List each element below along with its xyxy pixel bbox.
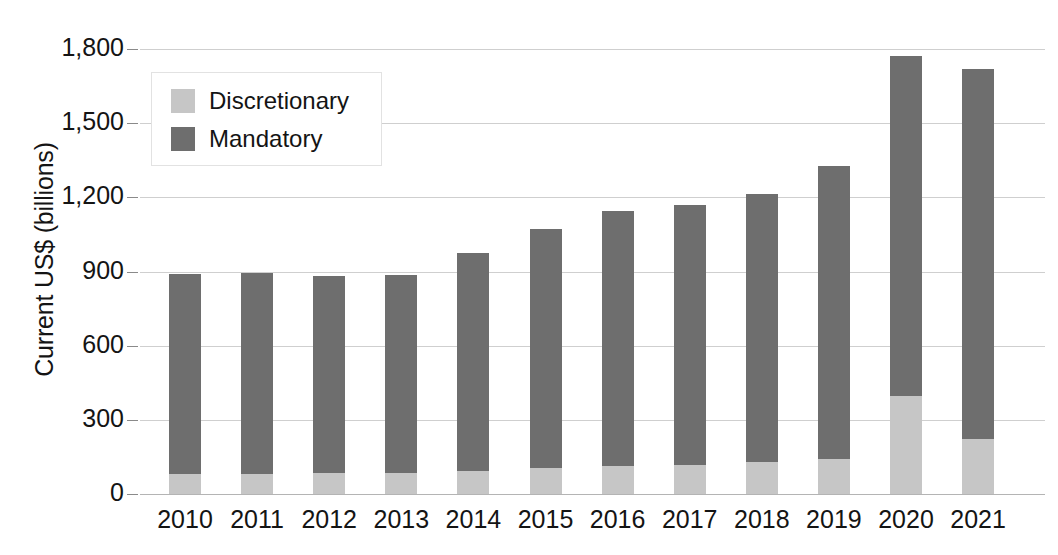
bar-segment-discretionary (602, 466, 634, 494)
bar-segment-mandatory (385, 275, 417, 473)
bar-segment-mandatory (169, 274, 201, 474)
bar-2017 (674, 205, 706, 494)
bar-segment-discretionary (241, 474, 273, 494)
bar-segment-mandatory (818, 166, 850, 458)
bar-segment-mandatory (890, 56, 922, 396)
y-tick-label: 900 (12, 256, 124, 285)
bar-2018 (746, 194, 778, 494)
bar-segment-mandatory (313, 276, 345, 473)
bar-segment-discretionary (169, 474, 201, 494)
bar-2021 (962, 69, 994, 494)
bar-2013 (385, 275, 417, 494)
bar-2014 (457, 253, 489, 494)
bar-segment-mandatory (457, 253, 489, 471)
bar-segment-mandatory (746, 194, 778, 462)
y-tick-label: 1,500 (12, 107, 124, 136)
y-tick-label: 300 (12, 404, 124, 433)
bar-segment-discretionary (962, 439, 994, 494)
bar-2012 (313, 276, 345, 494)
y-tick-mark (127, 494, 138, 495)
bar-2015 (530, 229, 562, 494)
y-tick-mark (127, 197, 138, 198)
bar-segment-mandatory (530, 229, 562, 468)
y-tick-label: 600 (12, 330, 124, 359)
y-tick-mark (127, 49, 138, 50)
legend-swatch-discretionary (171, 89, 195, 113)
legend-entry-discretionary: Discretionary (171, 87, 349, 115)
bar-2019 (818, 166, 850, 494)
y-tick-label: 1,800 (12, 33, 124, 62)
bar-2016 (602, 211, 634, 494)
bar-2010 (169, 274, 201, 494)
bar-segment-discretionary (746, 462, 778, 494)
y-tick-label: 0 (12, 478, 124, 507)
bar-segment-mandatory (674, 205, 706, 465)
bar-segment-mandatory (241, 273, 273, 474)
y-tick-label: 1,200 (12, 181, 124, 210)
bar-segment-discretionary (530, 468, 562, 494)
gridline (140, 49, 1045, 50)
bar-2011 (241, 273, 273, 494)
legend-entry-mandatory: Mandatory (171, 125, 322, 153)
bar-segment-mandatory (602, 211, 634, 466)
bar-segment-discretionary (674, 465, 706, 494)
legend-label-mandatory: Mandatory (209, 125, 322, 153)
y-tick-mark (127, 346, 138, 347)
bar-segment-discretionary (313, 473, 345, 494)
x-tick-label-2021: 2021 (933, 505, 1023, 534)
y-tick-mark (127, 272, 138, 273)
bar-segment-mandatory (962, 69, 994, 439)
legend-label-discretionary: Discretionary (209, 87, 349, 115)
bar-segment-discretionary (457, 471, 489, 494)
bar-segment-discretionary (890, 396, 922, 494)
stacked-bar-chart: Current US$ (billions) 03006009001,2001,… (0, 0, 1058, 555)
y-tick-mark (127, 123, 138, 124)
chart-legend: Discretionary Mandatory (151, 72, 382, 166)
y-tick-mark (127, 420, 138, 421)
bar-segment-discretionary (385, 473, 417, 494)
legend-swatch-mandatory (171, 127, 195, 151)
bar-segment-discretionary (818, 459, 850, 494)
bar-2020 (890, 56, 922, 494)
gridline (140, 494, 1045, 495)
